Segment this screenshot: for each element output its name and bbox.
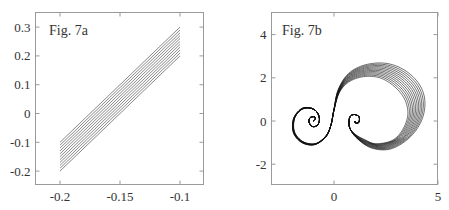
series-line [60,30,180,145]
fig-7a-panel: -0.2-0.15-0.1-0.2-0.100.10.20.3 Fig. 7a [10,13,204,204]
series-line [60,44,180,159]
fig-7b-panel: 05-2024 Fig. 7b [256,13,442,204]
y-tick-label: -0.1 [10,135,31,150]
x-tick-label: -0.1 [170,189,191,204]
figure-canvas: -0.2-0.15-0.1-0.2-0.100.10.20.3 Fig. 7a … [0,0,449,210]
x-tick-label: -0.2 [50,189,71,204]
x-tick-label: -0.15 [106,189,133,204]
fig-7b-frame [272,13,438,185]
fig-7a-lines [60,27,180,171]
series-curve [294,76,408,144]
y-tick-label: 0.3 [14,20,30,35]
series-curve [293,73,412,145]
fig-7a-label: Fig. 7a [49,23,89,38]
x-tick-label: 5 [435,189,442,204]
series-line [60,33,180,148]
series-line [60,27,180,142]
y-tick-label: 0.2 [14,48,30,63]
series-line [60,50,180,165]
x-tick-label: 0 [331,189,338,204]
fig-7b-curves [292,63,424,150]
series-line [60,47,180,162]
y-tick-label: 0 [24,106,31,121]
series-curve [293,75,409,144]
y-tick-label: 4 [260,27,267,42]
y-tick-label: 0 [260,114,267,129]
series-line [60,39,180,154]
y-tick-label: -2 [256,157,267,172]
y-tick-label: -0.2 [10,164,31,179]
series-line [60,53,180,168]
series-line [60,42,180,157]
y-tick-label: 0.1 [14,77,30,92]
fig-7b-label: Fig. 7b [282,23,322,38]
series-curve [293,74,411,145]
series-line [60,56,180,171]
series-line [60,36,180,151]
fig-7b-axes: 05-2024 [256,13,442,204]
y-tick-label: 2 [260,70,267,85]
